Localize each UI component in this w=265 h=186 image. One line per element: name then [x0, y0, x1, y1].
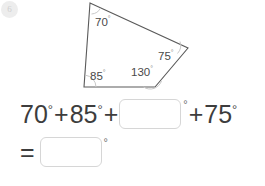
plus-operator-3: +: [188, 100, 205, 129]
answer-input-total-sum[interactable]: [40, 137, 102, 167]
angle-label-right: 75°: [158, 49, 174, 62]
angle-label-bottom-left: 85°: [90, 69, 106, 82]
answer-input-missing-angle[interactable]: [119, 99, 181, 129]
equation-line-1: 70° + 85° + ° + 75°: [20, 96, 237, 132]
quadrilateral-svg: 70° 75° 130° 85°: [0, 0, 265, 95]
plus-operator-2: +: [103, 100, 120, 129]
term-70: 70°: [20, 100, 53, 129]
angle-label-bottom-right: 130°: [131, 65, 153, 78]
degree-symbol-blank-2: °: [104, 137, 108, 148]
equation-area: 70° + 85° + ° + 75° = °: [0, 93, 265, 186]
equals-operator: =: [20, 138, 35, 167]
answer-blank-2-wrap: °: [40, 137, 108, 167]
angle-label-top: 70°: [95, 15, 111, 28]
term-85: 85°: [70, 100, 103, 129]
term-75: 75°: [204, 100, 237, 129]
angle-arc-top: [92, 8, 101, 14]
plus-operator-1: +: [53, 100, 70, 129]
answer-blank-1-wrap: °: [119, 99, 187, 129]
equation-line-2: = °: [20, 134, 108, 170]
geometry-figure: 70° 75° 130° 85°: [0, 0, 265, 95]
